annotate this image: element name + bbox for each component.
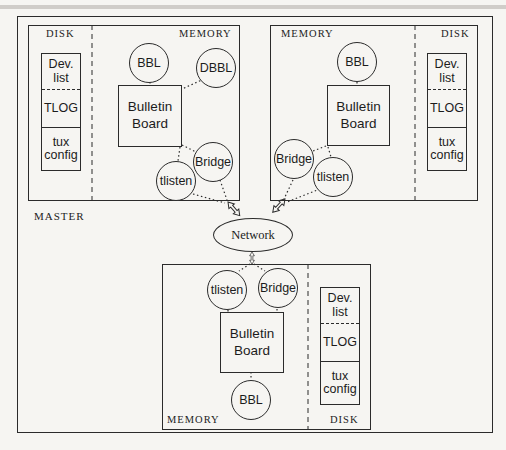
top-right-memory-section-label: MEMORY (281, 28, 334, 39)
network-ellipse: Network (213, 218, 293, 252)
tuxedo-architecture-diagram: DISK MEMORY MASTER Dev. list TLOG tux co… (0, 0, 506, 450)
bottom-bridge-circle: Bridge (258, 268, 298, 308)
top-right-bridge-circle: Bridge (274, 139, 314, 179)
top-right-disk-section-label: DISK (441, 28, 470, 39)
bottom-memory-section-label: MEMORY (167, 414, 220, 425)
bottom-tlog-cell: TLOG (321, 324, 359, 362)
bottom-disk-stack: Dev. list TLOG tux config (320, 287, 360, 405)
master-machine-tag: MASTER (34, 210, 85, 222)
master-tux-config-cell: tux config (42, 128, 80, 170)
master-disk-section-label: DISK (46, 28, 75, 39)
top-right-dev-list-cell: Dev. list (428, 54, 466, 90)
bottom-tux-config-cell: tux config (321, 362, 359, 404)
master-dbbl-circle: DBBL (196, 48, 236, 88)
top-right-bbl-circle: BBL (337, 42, 377, 82)
top-right-tux-config-cell: tux config (428, 128, 466, 170)
master-disk-stack: Dev. list TLOG tux config (41, 53, 81, 171)
master-bridge-circle: Bridge (193, 142, 233, 182)
master-bbl-circle: BBL (129, 43, 169, 83)
master-memory-section-label: MEMORY (179, 28, 232, 39)
bottom-bulletin-board-box: Bulletin Board (220, 312, 284, 373)
master-dev-list-cell: Dev. list (42, 54, 80, 90)
bottom-disk-section-label: DISK (330, 414, 359, 425)
bottom-bbl-circle: BBL (231, 380, 271, 420)
top-right-tlog-cell: TLOG (428, 90, 466, 128)
top-right-tlisten-circle: tlisten (313, 157, 353, 197)
master-bulletin-board-box: Bulletin Board (118, 85, 182, 147)
master-tlisten-circle: tlisten (156, 161, 196, 201)
top-right-bulletin-board-box: Bulletin Board (327, 85, 390, 146)
bottom-tlisten-circle: tlisten (207, 270, 247, 310)
network-label: Network (231, 228, 275, 243)
master-tlog-cell: TLOG (42, 90, 80, 128)
top-right-disk-stack: Dev. list TLOG tux config (427, 53, 467, 171)
bottom-dev-list-cell: Dev. list (321, 288, 359, 324)
